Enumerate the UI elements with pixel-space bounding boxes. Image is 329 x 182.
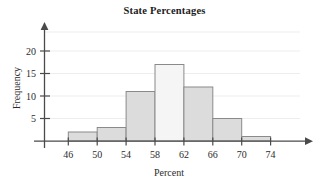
bar-50-54: [97, 128, 126, 142]
bar-62-66: [184, 87, 213, 141]
x-tick-label-46: 46: [63, 149, 73, 160]
bar-66-70: [213, 119, 242, 142]
x-tick-label-66: 66: [208, 149, 218, 160]
x-tick-label-50: 50: [92, 149, 102, 160]
x-tick-label-70: 70: [237, 149, 247, 160]
histogram-plot: 5 10 15 20 46 50 54 58 62 66 70 74 Perce…: [0, 0, 329, 182]
x-tick-label-54: 54: [121, 149, 131, 160]
x-tick-label-74: 74: [266, 149, 276, 160]
y-tick-label-5: 5: [31, 113, 36, 124]
bar-58-62: [155, 65, 184, 142]
y-tick-label-10: 10: [26, 91, 36, 102]
bars: [68, 65, 270, 142]
bar-54-58: [126, 92, 155, 142]
x-tick-label-58: 58: [150, 149, 160, 160]
x-tick-label-62: 62: [179, 149, 189, 160]
chart-page: State Percentages: [0, 0, 329, 182]
bar-46-50: [68, 132, 97, 141]
x-axis-title: Percent: [154, 167, 184, 178]
y-axis-arrow: [41, 22, 49, 30]
y-tick-label-15: 15: [26, 68, 36, 79]
x-axis-arrow: [305, 137, 313, 145]
y-axis-title: Frequency: [11, 67, 22, 109]
y-tick-label-20: 20: [26, 46, 36, 57]
bar-70-74: [242, 137, 271, 142]
y-tick-labels: 5 10 15 20: [26, 46, 36, 125]
x-tick-labels: 46 50 54 58 62 66 70 74: [63, 149, 275, 160]
